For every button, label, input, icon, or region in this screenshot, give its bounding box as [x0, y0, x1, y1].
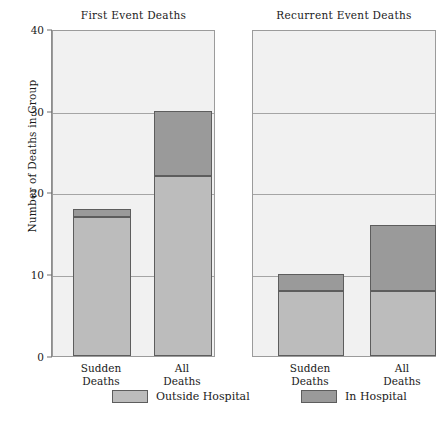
- gridline-30: [253, 113, 435, 114]
- x-label-left-sudden-deaths: Sudden Deaths: [81, 362, 121, 387]
- x-label-line2: Deaths: [290, 375, 330, 388]
- bar-segment-outside-hospital[interactable]: [370, 291, 436, 356]
- bar-segment-outside-hospital[interactable]: [154, 176, 212, 356]
- y-axis: Number of Deaths in Group 0 10 20 30 40: [0, 0, 52, 421]
- panel-recurrent-event-deaths: Recurrent Event Deaths: [252, 30, 436, 357]
- bar-segment-in-hospital[interactable]: [154, 111, 212, 176]
- y-tick-label-40: 40: [31, 25, 44, 36]
- bar-right-sudden-deaths[interactable]: [278, 274, 344, 356]
- legend-item-in-hospital[interactable]: In Hospital: [301, 390, 407, 403]
- bar-segment-in-hospital[interactable]: [278, 274, 344, 291]
- bar-left-sudden-deaths[interactable]: [73, 209, 131, 356]
- x-label-line2: Deaths: [81, 375, 121, 388]
- y-tick-label-10: 10: [31, 270, 44, 281]
- x-label-line2: Deaths: [383, 375, 420, 388]
- bar-segment-in-hospital[interactable]: [73, 209, 131, 217]
- x-label-right-all-deaths: All Deaths: [383, 362, 420, 387]
- legend-swatch-in-hospital: [301, 390, 337, 403]
- panel-first-event-deaths: First Event Deaths: [52, 30, 215, 357]
- legend-label-outside-hospital: Outside Hospital: [156, 390, 250, 403]
- y-axis-title: Number of Deaths in Group: [26, 56, 38, 256]
- x-label-line1: All: [383, 362, 420, 375]
- legend-item-outside-hospital[interactable]: Outside Hospital: [112, 390, 250, 403]
- chart-figure: Number of Deaths in Group 0 10 20 30 40 …: [0, 0, 448, 421]
- panel-left-title: First Event Deaths: [53, 9, 214, 21]
- legend-label-in-hospital: In Hospital: [345, 390, 407, 403]
- y-tick-label-0: 0: [37, 352, 44, 363]
- bar-segment-outside-hospital[interactable]: [278, 291, 344, 356]
- x-label-line2: Deaths: [163, 375, 200, 388]
- x-label-left-all-deaths: All Deaths: [163, 362, 200, 387]
- y-tick-label-30: 30: [31, 107, 44, 118]
- panel-right-title: Recurrent Event Deaths: [253, 9, 435, 21]
- legend-swatch-outside-hospital: [112, 390, 148, 403]
- bar-right-all-deaths[interactable]: [370, 225, 436, 356]
- bar-segment-in-hospital[interactable]: [370, 225, 436, 291]
- y-tick-label-20: 20: [31, 188, 44, 199]
- x-label-line1: Sudden: [81, 362, 121, 375]
- x-label-line1: All: [163, 362, 200, 375]
- gridline-20: [253, 194, 435, 195]
- x-label-right-sudden-deaths: Sudden Deaths: [290, 362, 330, 387]
- bar-segment-outside-hospital[interactable]: [73, 217, 131, 356]
- bar-left-all-deaths[interactable]: [154, 111, 212, 356]
- x-label-line1: Sudden: [290, 362, 330, 375]
